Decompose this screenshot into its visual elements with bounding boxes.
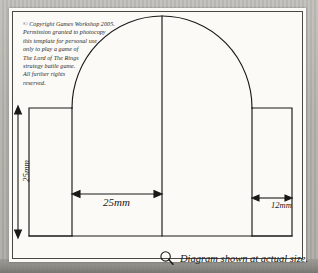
copyright-line: The Lord of The Rings	[23, 54, 131, 62]
width-arrow-left	[72, 191, 80, 198]
right-flank-outline	[252, 108, 292, 236]
copyright-notice: © Copyright Games Workshop 2005. Permiss…	[23, 20, 131, 87]
copyright-line: this template for personal use	[23, 37, 131, 45]
copyright-line: strategy battle game.	[23, 62, 131, 70]
caption-row: Diagram shown at actual size.	[159, 250, 308, 266]
height-dimension-label: 25mm	[21, 160, 31, 182]
side-dimension-label: 12mm	[271, 200, 292, 210]
side-arrow-left	[252, 195, 259, 201]
width-arrow-right	[154, 191, 162, 198]
height-arrow-up	[15, 106, 22, 114]
left-flank-outline	[29, 108, 72, 236]
width-dimension-label: 25mm	[103, 196, 130, 208]
copyright-line: © Copyright Games Workshop 2005.	[23, 20, 131, 28]
height-arrow-down	[15, 230, 22, 238]
copyright-line: All further rights	[23, 70, 131, 78]
copyright-line: only to play a game of	[23, 45, 131, 53]
copyright-line: reserved.	[23, 79, 131, 87]
copyright-line: Permission granted to photocopy	[23, 28, 131, 36]
magnifier-icon	[159, 250, 175, 266]
page-sheet: © Copyright Games Workshop 2005. Permiss…	[9, 8, 306, 262]
caption-text: Diagram shown at actual size.	[180, 253, 308, 264]
